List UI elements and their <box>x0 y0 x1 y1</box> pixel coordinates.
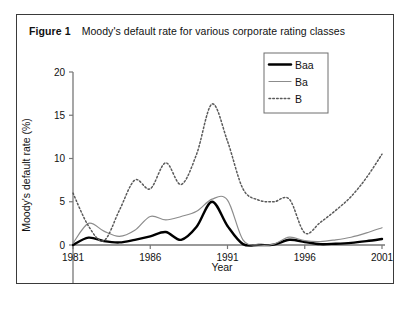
legend-label-ba: Ba <box>295 76 308 88</box>
default-rate-line-chart: -505101520 19811986199119962001 BaaBaB M… <box>17 43 395 283</box>
series-line-ba <box>73 196 382 245</box>
legend-label-b: B <box>295 93 302 105</box>
chart-series-group <box>73 104 382 246</box>
x-axis-tick-label: 1981 <box>62 252 85 263</box>
chart-plot-area: -505101520 19811986199119962001 BaaBaB M… <box>17 43 395 283</box>
x-axis-tick-label: 1986 <box>139 252 162 263</box>
y-axis-tick-label: 15 <box>54 110 66 121</box>
legend-label-baa: Baa <box>295 59 314 71</box>
y-axis-tick-label: 0 <box>59 240 65 251</box>
chart-legend: BaaBaB <box>264 53 328 113</box>
series-line-b <box>73 104 382 241</box>
figure-caption-text: Moody's default rate for various corpora… <box>82 25 345 37</box>
figure-caption: Figure 1 Moody's default rate for variou… <box>29 25 383 41</box>
x-axis-title: Year <box>211 261 233 273</box>
y-axis-tick-label: 10 <box>54 153 66 164</box>
y-axis-title: Moody's default rate (%) <box>20 118 32 231</box>
figure-label: Figure 1 <box>29 25 71 37</box>
y-axis-tick-label: 20 <box>54 67 66 78</box>
y-axis-tick-label: 5 <box>59 196 65 207</box>
figure-card: Figure 1 Moody's default rate for variou… <box>16 14 394 284</box>
x-axis-tick-label: 1996 <box>294 252 317 263</box>
x-axis-tick-label: 2001 <box>371 252 394 263</box>
y-axis: -505101520 <box>54 67 73 283</box>
series-line-baa <box>73 202 382 246</box>
